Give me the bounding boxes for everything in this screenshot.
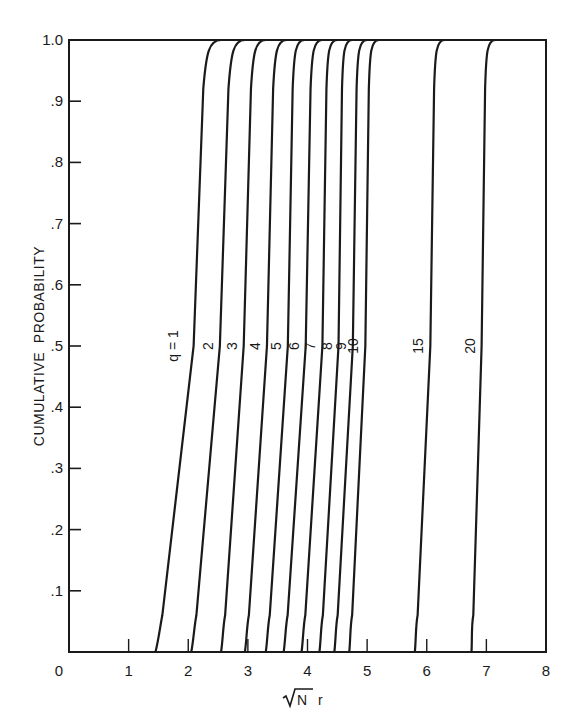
curve-label-q-2: 2: [200, 342, 216, 350]
x-tick-label: 7: [482, 662, 490, 679]
curve-label-q-3: 3: [224, 342, 240, 350]
x-axis-title: N r: [283, 689, 323, 708]
x-tick-label: 0: [55, 662, 63, 679]
x-axis-title-n: N: [297, 692, 308, 708]
cumulative-probability-chart: .1.2.3.4.5.6.7.8.91.0 012345678 q = 1234…: [0, 0, 576, 728]
y-tick-label: .4: [50, 398, 63, 415]
curve-label-q-20: 20: [462, 338, 478, 354]
y-tick-label: .9: [50, 92, 63, 109]
y-tick-label: .5: [50, 337, 63, 354]
x-tick-label: 1: [124, 662, 132, 679]
x-tick-label: 5: [363, 662, 371, 679]
x-axis-title-r: r: [318, 692, 323, 708]
x-tick-label: 3: [244, 662, 252, 679]
y-tick-label: .6: [50, 276, 63, 293]
curve-label-q-1: q = 1: [165, 330, 181, 362]
x-tick-label: 8: [542, 662, 550, 679]
curve-label-q-6: 6: [286, 342, 302, 350]
y-tick-label: .7: [50, 215, 63, 232]
curve-label-q-5: 5: [268, 342, 284, 350]
y-tick-label: .2: [50, 521, 63, 538]
x-tick-label: 6: [423, 662, 431, 679]
y-tick-label: .8: [50, 153, 63, 170]
x-tick-label: 4: [303, 662, 311, 679]
y-tick-label: .3: [50, 459, 63, 476]
y-tick-label: 1.0: [42, 31, 63, 48]
curve-label-q-7: 7: [302, 342, 318, 350]
y-axis-title: CUMULATIVE PROBABILITY: [31, 246, 47, 446]
y-axis-ticks: .1.2.3.4.5.6.7.8.91.0: [42, 31, 81, 599]
y-tick-label: .1: [50, 582, 63, 599]
curve-label-q-10: 10: [345, 338, 361, 354]
x-tick-label: 2: [184, 662, 192, 679]
curve-label-q-15: 15: [410, 338, 426, 354]
curve-label-q-4: 4: [247, 342, 263, 350]
